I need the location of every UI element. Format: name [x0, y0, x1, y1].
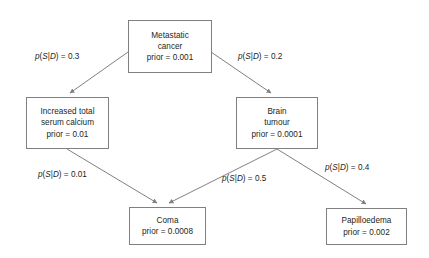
node-prior: prior = 0.001: [147, 52, 193, 63]
node-metastatic-cancer[interactable]: Metastatic cancer prior = 0.001: [128, 20, 212, 73]
edge-label-value: 0.4: [358, 163, 369, 172]
node-increased-total-serum-calcium[interactable]: Increased total serum calcium prior = 0.…: [26, 97, 109, 149]
node-title-line-2: cancer: [158, 41, 183, 52]
edge-label-metastatic-cancer-to-serum-calcium: p(S|D) = 0.3: [35, 52, 79, 62]
node-brain-tumour[interactable]: Brain tumour prior = 0.0001: [236, 97, 318, 149]
edge-label-metastatic-cancer-to-brain-tumour: p(S|D) = 0.2: [238, 52, 282, 62]
edge-label-brain-tumour-to-coma: p(S|D) = 0.5: [222, 174, 266, 184]
edge-label-value: 0.3: [68, 52, 79, 61]
node-prior: prior = 0.002: [343, 227, 389, 238]
node-title-line-1: Metastatic: [151, 30, 189, 41]
edge-brain-tumour-to-papilloedema: [277, 149, 366, 204]
node-coma[interactable]: Coma prior = 0.0008: [129, 207, 206, 245]
node-prior: prior = 0.01: [47, 129, 89, 140]
edge-label-equals: =: [62, 170, 71, 179]
edge-label-serum-calcium-to-coma: p(S|D) = 0.01: [38, 170, 87, 180]
node-title-line-1: Papilloedema: [342, 215, 392, 226]
edge-label-value: 0.2: [271, 52, 282, 61]
edge-label-equals: =: [59, 52, 68, 61]
node-title-line-1: Coma: [157, 215, 179, 226]
node-prior: prior = 0.0008: [142, 226, 193, 237]
node-title-line-2: tumour: [264, 117, 290, 128]
node-title-line-1: Brain: [267, 106, 286, 117]
edge-label-value: 0.01: [71, 170, 87, 179]
node-title-line-1: Increased total: [40, 106, 94, 117]
bayesian-network-diagram: Metastatic cancer prior = 0.001 Increase…: [0, 0, 429, 258]
node-title-line-2: serum calcium: [41, 117, 94, 128]
edge-label-equals: =: [246, 174, 255, 183]
edge-label-equals: =: [262, 52, 271, 61]
node-prior: prior = 0.0001: [251, 129, 302, 140]
edge-label-value: 0.5: [255, 174, 266, 183]
node-papilloedema[interactable]: Papilloedema prior = 0.002: [326, 208, 407, 245]
edge-label-equals: =: [349, 163, 358, 172]
edge-label-brain-tumour-to-papilloedema: p(S|D) = 0.4: [325, 163, 369, 173]
